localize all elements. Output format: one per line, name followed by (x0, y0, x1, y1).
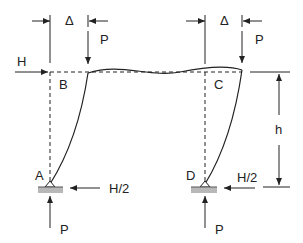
reaction-horizontal-label-a: H/2 (109, 181, 129, 196)
reaction-vertical-label-d: P (215, 222, 224, 237)
height-label: h (275, 122, 282, 137)
reaction-vertical-label-a: P (60, 222, 69, 237)
node-label-a: A (35, 168, 44, 183)
node-label-d: D (186, 168, 195, 183)
portal-frame-diagram: Δ Δ P P H B C A D H/2 H/2 P P (0, 0, 303, 243)
horizontal-load-label: H (17, 54, 26, 69)
node-label-c: C (214, 77, 223, 92)
load-label-left: P (100, 32, 109, 47)
sway-label-left: Δ (65, 13, 74, 28)
sway-label-right: Δ (220, 13, 229, 28)
node-label-b: B (59, 77, 68, 92)
load-label-right: P (255, 32, 264, 47)
reaction-horizontal-label-d: H/2 (237, 170, 257, 185)
